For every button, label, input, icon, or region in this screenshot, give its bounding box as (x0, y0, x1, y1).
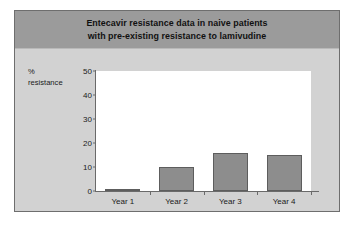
x-axis-line (95, 191, 319, 192)
y-axis-tick-label: 30 (83, 115, 96, 124)
x-axis-tick-label: Year 2 (165, 197, 188, 206)
x-axis-tick-mark (257, 191, 258, 195)
page-title: Entecavir resistance data in naive patie… (86, 17, 267, 42)
y-axis-tick-label: 0 (88, 187, 96, 196)
y-axis-line (95, 70, 96, 192)
x-axis-tick-mark (150, 191, 151, 195)
x-axis-tick-mark (204, 191, 205, 195)
x-axis-tick-mark (311, 191, 312, 195)
x-axis-tick-label: Year 3 (219, 197, 242, 206)
bar-year-2 (159, 167, 194, 191)
bar-year-1 (105, 189, 140, 191)
chart-figure: Entecavir resistance data in naive patie… (14, 10, 340, 212)
y-axis-caption: % resistance (28, 67, 84, 88)
y-axis-tick-label: 10 (83, 163, 96, 172)
y-axis-tick-label: 40 (83, 91, 96, 100)
y-axis-tick-label: 50 (83, 67, 96, 76)
chart-region: % resistance 01020304050 Year 1Year 2Yea… (15, 49, 339, 211)
chart-title-band: Entecavir resistance data in naive patie… (15, 11, 339, 49)
x-axis-tick-label: Year 4 (273, 197, 296, 206)
y-axis-tick-label: 20 (83, 139, 96, 148)
x-axis-tick-label: Year 1 (111, 197, 134, 206)
bar-year-3 (213, 153, 248, 191)
bar-year-4 (267, 155, 302, 191)
